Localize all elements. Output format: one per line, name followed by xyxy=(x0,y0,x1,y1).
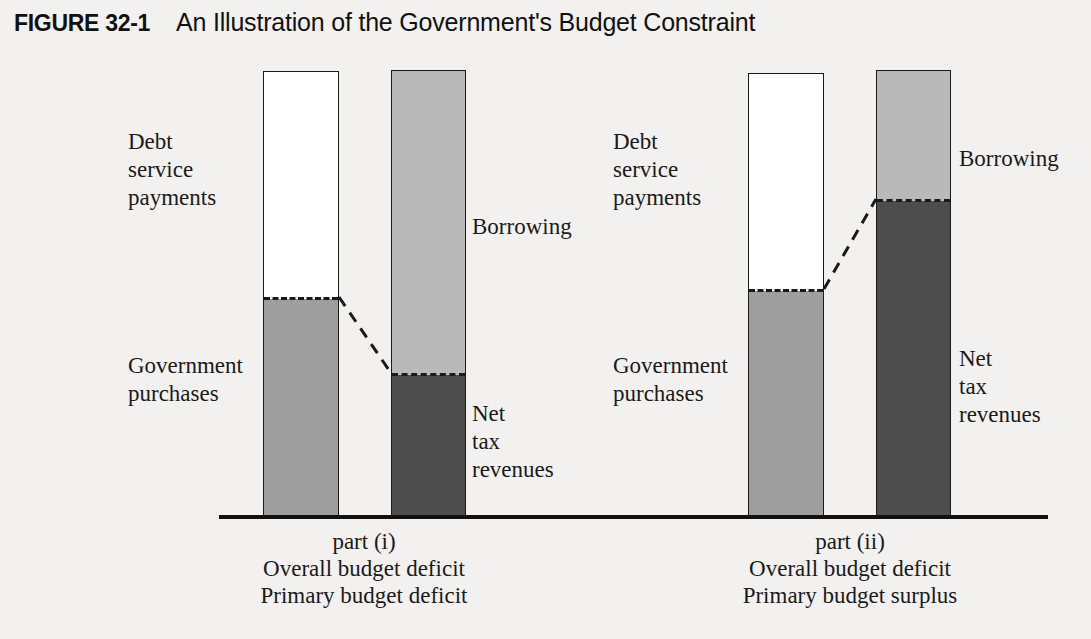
part-ii-net-tax-revenues-segment xyxy=(877,201,950,516)
part-i-government-purchases-label: Government purchases xyxy=(128,352,243,408)
part-ii-government-purchases-segment xyxy=(749,291,823,516)
part-i-debt-service-segment xyxy=(264,72,338,299)
part-i-sources-bar xyxy=(391,70,466,517)
part-ii-caption: part (ii) Overall budget deficit Primary… xyxy=(700,528,1000,609)
part-ii-sources-divider xyxy=(877,199,950,202)
part-i-sources-divider xyxy=(392,373,465,376)
part-ii-borrowing-label: Borrowing xyxy=(959,145,1059,173)
part-i-outlays-divider xyxy=(264,297,338,300)
part-ii-connector-line xyxy=(824,199,876,289)
baseline-axis xyxy=(219,515,1048,519)
part-i-net-tax-revenues-label: Net tax revenues xyxy=(472,400,554,484)
part-ii-debt-service-segment xyxy=(749,74,823,291)
part-i-debt-service-label: Debt service payments xyxy=(128,128,216,212)
part-i-government-purchases-segment xyxy=(264,299,338,516)
part-i-caption: part (i) Overall budget deficit Primary … xyxy=(214,528,514,609)
part-ii-outlays-divider xyxy=(749,289,823,292)
part-ii-debt-service-label: Debt service payments xyxy=(613,128,701,212)
part-ii-government-purchases-label: Government purchases xyxy=(613,352,728,408)
part-i-borrowing-segment xyxy=(392,71,465,375)
part-i-net-tax-revenues-segment xyxy=(392,375,465,516)
figure-plot-area: Debt service payments Government purchas… xyxy=(0,0,1091,639)
part-i-borrowing-label: Borrowing xyxy=(472,213,572,241)
part-ii-net-tax-revenues-label: Net tax revenues xyxy=(959,345,1041,429)
part-ii-borrowing-segment xyxy=(877,71,950,201)
part-i-outlays-bar xyxy=(263,71,339,517)
part-ii-sources-bar xyxy=(876,70,951,517)
part-ii-outlays-bar xyxy=(748,73,824,517)
part-i-connector-line xyxy=(339,297,391,373)
